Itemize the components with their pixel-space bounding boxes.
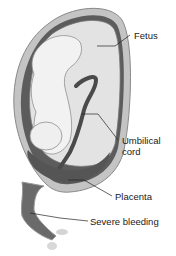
label-umbilical-cord-line1: Umbilical <box>122 135 161 146</box>
label-fetus: Fetus <box>134 30 158 41</box>
fetus-head <box>30 122 62 150</box>
label-umbilical-cord-line2: cord <box>122 146 161 157</box>
label-umbilical-cord: Umbilical cord <box>122 135 161 157</box>
label-placenta: Placenta <box>115 191 152 202</box>
blood-drop <box>47 242 57 250</box>
blood-drop <box>56 229 68 235</box>
bleeding-channel <box>21 182 56 240</box>
label-severe-bleeding: Severe bleeding <box>90 216 159 227</box>
